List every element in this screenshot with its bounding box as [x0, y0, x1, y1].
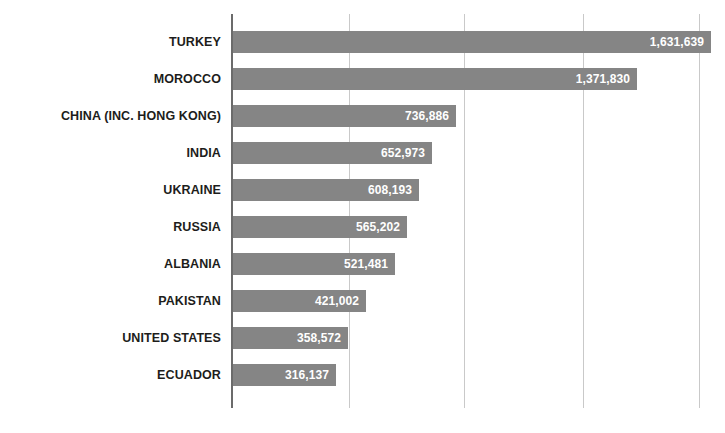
bar-row: ECUADOR316,137	[0, 364, 725, 386]
category-label: TURKEY	[169, 31, 231, 53]
category-label: UKRAINE	[163, 179, 231, 201]
bar-row: UNITED STATES358,572	[0, 327, 725, 349]
bar-row: TURKEY1,631,639	[0, 31, 725, 53]
bar-chart: TURKEY1,631,639MOROCCO1,371,830CHINA (IN…	[0, 0, 725, 433]
bar: 736,886	[233, 105, 456, 127]
bar: 358,572	[233, 327, 348, 349]
bar-value-label: 608,193	[368, 179, 412, 201]
bar: 521,481	[233, 253, 395, 275]
bar-value-label: 652,973	[381, 142, 425, 164]
bar-value-label: 565,202	[356, 216, 400, 238]
category-label: ALBANIA	[164, 253, 231, 275]
bar-row: CHINA (INC. HONG KONG)736,886	[0, 105, 725, 127]
bar: 1,371,830	[233, 68, 637, 90]
bar-value-label: 358,572	[297, 327, 341, 349]
bar: 652,973	[233, 142, 432, 164]
bar-value-label: 736,886	[405, 105, 449, 127]
bar: 421,002	[233, 290, 366, 312]
category-label: UNITED STATES	[122, 327, 231, 349]
bar-row: UKRAINE608,193	[0, 179, 725, 201]
category-label: PAKISTAN	[158, 290, 231, 312]
category-label: MOROCCO	[154, 68, 231, 90]
bar-value-label: 1,631,639	[650, 31, 704, 53]
bar-row: ALBANIA521,481	[0, 253, 725, 275]
bar-row: INDIA652,973	[0, 142, 725, 164]
category-label: CHINA (INC. HONG KONG)	[61, 105, 231, 127]
bar-row: PAKISTAN421,002	[0, 290, 725, 312]
bar: 316,137	[233, 364, 336, 386]
bar-row: MOROCCO1,371,830	[0, 68, 725, 90]
bar: 1,631,639	[233, 31, 711, 53]
bar-value-label: 1,371,830	[576, 68, 630, 90]
bar-row: RUSSIA565,202	[0, 216, 725, 238]
bar-value-label: 421,002	[315, 290, 359, 312]
category-label: INDIA	[186, 142, 231, 164]
category-label: ECUADOR	[157, 364, 231, 386]
bar-value-label: 316,137	[285, 364, 329, 386]
bar-value-label: 521,481	[344, 253, 388, 275]
bar: 565,202	[233, 216, 407, 238]
plot-area: TURKEY1,631,639MOROCCO1,371,830CHINA (IN…	[0, 0, 725, 433]
bar: 608,193	[233, 179, 419, 201]
category-label: RUSSIA	[173, 216, 231, 238]
